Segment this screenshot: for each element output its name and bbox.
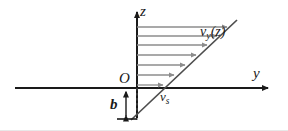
velocity-profile-argument: (z) [211, 24, 226, 39]
slip-length-label: b [110, 97, 118, 112]
y-axis-label: y [253, 66, 260, 81]
slip-velocity-label: vs [160, 90, 169, 106]
velocity-profile-diagram: z y O b vs vy(z) [0, 0, 288, 131]
slip-length-dimension-arrow [117, 92, 137, 119]
slip-velocity-subscript: s [166, 96, 170, 106]
velocity-profile-label: vy(z) [200, 25, 225, 41]
z-axis-label: z [140, 4, 146, 19]
diagram-canvas [0, 0, 288, 131]
origin-label: O [119, 71, 130, 86]
